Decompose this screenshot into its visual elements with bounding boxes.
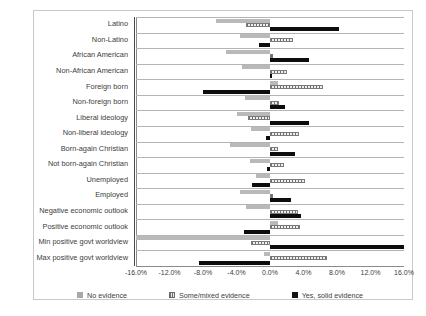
bar-none	[240, 34, 270, 38]
x-axis-tick-label: -16.0%	[125, 269, 147, 276]
x-axis-tick-label: 0.0%	[262, 269, 278, 276]
bar-mixed	[270, 132, 299, 136]
x-axis-labels: -16.0%-12.0%-8.0%-4.0%0.0%4.0%8.0%12.0%1…	[136, 269, 404, 281]
bar-solid	[252, 183, 270, 187]
row-separator	[136, 157, 404, 158]
bar-mixed	[270, 194, 273, 198]
chart-legend: No evidenceSome/mixed evidenceYes, solid…	[40, 288, 400, 302]
bar-solid	[259, 43, 270, 47]
bar-solid	[270, 198, 291, 202]
x-axis-line	[136, 266, 404, 267]
bar-none	[245, 96, 270, 100]
bar-solid	[266, 136, 270, 140]
row-separator	[136, 142, 404, 143]
row-separator	[136, 188, 404, 189]
x-axis-tick-label: -4.0%	[227, 269, 245, 276]
y-axis-tick-label: African American	[72, 51, 128, 59]
row-separator	[136, 173, 404, 174]
bar-none	[256, 174, 270, 178]
bar-solid	[267, 167, 270, 171]
row-separator	[136, 64, 404, 65]
y-axis-tick-label: Latino	[108, 20, 128, 28]
y-axis-tick-label: Foreign born	[86, 83, 128, 91]
bar-none	[270, 81, 278, 85]
legend-swatch-icon	[77, 292, 83, 298]
legend-item[interactable]: No evidence	[77, 291, 127, 300]
y-axis-tick-label: Max positive govt worldview	[36, 254, 128, 262]
y-axis-tick-label: Non-foreign born	[73, 98, 128, 106]
bar-none	[270, 221, 278, 225]
y-axis-tick-label: Employed	[95, 191, 128, 199]
row-separator	[136, 17, 404, 18]
bar-none	[230, 143, 270, 147]
x-axis-tick-label: 8.0%	[329, 269, 345, 276]
bar-mixed	[270, 210, 298, 214]
bar-solid	[203, 90, 270, 94]
legend-label: Yes, solid evidence	[302, 291, 363, 300]
legend-swatch-icon	[169, 292, 175, 298]
legend-item[interactable]: Some/mixed evidence	[169, 291, 250, 300]
y-axis-tick-label: Positive economic outlook	[43, 223, 128, 231]
x-axis-tick-label: -8.0%	[194, 269, 212, 276]
x-axis-tick-label: 4.0%	[296, 269, 312, 276]
y-axis-tick-label: Not born-again Christian	[48, 160, 128, 168]
row-separator	[136, 204, 404, 205]
bar-mixed	[270, 163, 284, 167]
bar-none	[264, 252, 270, 256]
y-axis-tick-label: Non-Latino	[92, 36, 128, 44]
row-separator	[136, 250, 404, 251]
y-axis-tick-label: Born-again Christian	[61, 145, 128, 153]
row-separator	[136, 126, 404, 127]
bar-none	[246, 205, 270, 209]
y-axis-labels: LatinoNon-LatinoAfrican AmericanNon-Afri…	[36, 17, 132, 266]
bar-mixed	[270, 256, 327, 260]
bar-solid	[270, 214, 301, 218]
bar-none	[242, 65, 270, 69]
bar-solid	[270, 245, 404, 249]
bar-mixed	[270, 38, 293, 42]
plot-area	[136, 17, 404, 266]
row-separator	[136, 48, 404, 49]
legend-swatch-icon	[292, 292, 298, 298]
x-axis-tick-label: 16.0%	[394, 269, 414, 276]
x-axis-tick-label: -12.0%	[158, 269, 180, 276]
bar-mixed	[251, 241, 270, 245]
bar-mixed	[270, 85, 323, 89]
bar-solid	[270, 121, 309, 125]
bar-solid	[244, 230, 270, 234]
zero-axis-line	[134, 17, 135, 266]
bar-none	[250, 159, 270, 163]
x-axis-tick-label: 12.0%	[361, 269, 381, 276]
row-separator	[136, 33, 404, 34]
legend-label: No evidence	[87, 291, 127, 300]
row-separator	[136, 95, 404, 96]
bar-solid	[270, 27, 339, 31]
y-axis-tick-label: Unemployed	[87, 176, 129, 184]
bar-mixed	[270, 225, 300, 229]
bar-solid	[270, 152, 295, 156]
bar-solid	[270, 105, 285, 109]
y-axis-tick-label: Min positive govt worldview	[38, 238, 128, 246]
bar-mixed	[246, 23, 270, 27]
chart-container: LatinoNon-LatinoAfrican AmericanNon-Afri…	[0, 0, 426, 316]
bar-mixed	[270, 101, 279, 105]
bar-mixed	[270, 147, 278, 151]
bar-none	[240, 190, 270, 194]
y-axis-tick-label: Non-African American	[56, 67, 128, 75]
bar-none	[136, 236, 270, 240]
legend-item[interactable]: Yes, solid evidence	[292, 291, 363, 300]
legend-label: Some/mixed evidence	[179, 291, 250, 300]
bar-none	[216, 19, 270, 23]
row-separator	[136, 110, 404, 111]
y-axis-tick-label: Negative economic outlook	[39, 207, 128, 215]
y-axis-tick-label: Non-liberal ideology	[63, 129, 128, 137]
bar-solid	[199, 261, 270, 265]
bar-none	[237, 112, 271, 116]
bar-mixed	[270, 54, 273, 58]
bar-solid	[270, 58, 309, 62]
bar-mixed	[248, 116, 270, 120]
bar-mixed	[270, 70, 287, 74]
bar-none	[251, 127, 270, 131]
bar-solid	[270, 74, 272, 78]
bar-none	[226, 50, 270, 54]
